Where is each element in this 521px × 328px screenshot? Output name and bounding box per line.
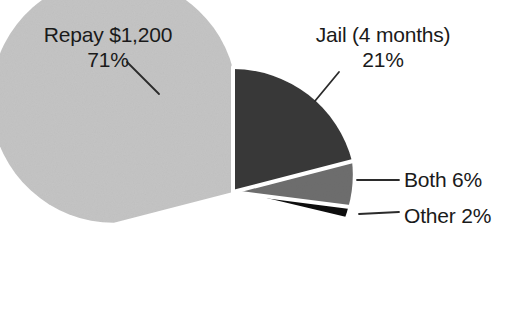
pie-label-other: Other 2% (404, 203, 491, 228)
pie-label-repay: Repay $1,200 71% (24, 22, 192, 72)
pie-label-both: Both 6% (404, 167, 482, 192)
pie-chart-figure: Repay $1,200 71% Jail (4 months) 21% Bot… (0, 0, 521, 328)
pie-label-jail-name: Jail (4 months) (316, 23, 451, 46)
pie-label-repay-name: Repay $1,200 (44, 23, 172, 46)
pie-label-jail: Jail (4 months) 21% (295, 22, 471, 72)
leader-line-other (359, 212, 399, 214)
pie-label-repay-value: 71% (24, 47, 192, 72)
pie-label-jail-value: 21% (295, 47, 471, 72)
leader-line-jail (315, 72, 339, 101)
